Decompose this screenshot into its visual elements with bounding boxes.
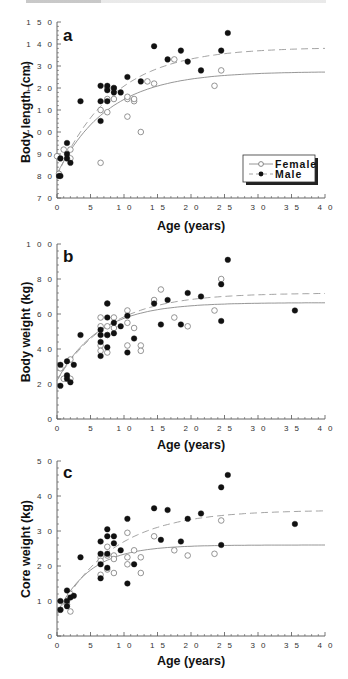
female-data-point <box>125 114 131 120</box>
y-tick-label: 0 <box>48 415 54 424</box>
female-data-point <box>111 96 117 102</box>
panel-c-points <box>58 472 298 614</box>
male-data-point <box>218 542 224 548</box>
male-data-point <box>131 562 137 568</box>
female-data-point <box>172 548 178 554</box>
male-data-point <box>151 43 157 49</box>
female-data-point <box>125 562 131 568</box>
male-data-point <box>218 48 224 54</box>
x-tick-label: 1 5 <box>150 424 167 433</box>
female-data-point <box>172 315 178 321</box>
y-tick-label: 7 0 <box>37 194 54 203</box>
female-data-point <box>125 555 131 561</box>
male-data-point <box>178 48 184 54</box>
male-data-point <box>58 362 64 368</box>
x-tick-label: 3 0 <box>250 641 267 650</box>
x-tick-label: 3 0 <box>250 203 267 212</box>
male-data-point <box>198 68 204 74</box>
x-tick-label: 2 5 <box>217 203 234 212</box>
x-tick-label: 4 0 <box>317 203 334 212</box>
male-data-point <box>105 301 111 307</box>
male-data-point <box>158 322 164 328</box>
female-data-point <box>185 324 191 330</box>
panel-b-points <box>58 257 298 389</box>
legend-male-label: Male <box>275 168 302 180</box>
male-data-point <box>105 345 111 351</box>
male-data-point <box>165 507 171 513</box>
male-data-point <box>98 539 104 545</box>
x-tick-label: 4 0 <box>317 424 334 433</box>
male-data-point <box>58 173 64 179</box>
male-data-point <box>78 332 84 338</box>
x-tick-label: 2 5 <box>217 424 234 433</box>
y-tick-label: 1 0 0 <box>26 240 54 249</box>
female-data-point <box>105 544 111 550</box>
female-data-point <box>131 325 137 331</box>
male-data-point <box>118 324 124 330</box>
male-data-point <box>125 313 131 319</box>
female-fit-line <box>57 545 325 613</box>
female-data-point <box>138 348 144 354</box>
male-data-point <box>111 320 117 326</box>
x-tick-label: 4 0 <box>317 641 334 650</box>
male-data-point <box>105 87 111 93</box>
male-data-point <box>131 336 137 342</box>
male-data-point <box>151 506 157 512</box>
male-data-point <box>218 318 224 324</box>
y-tick-label: 1 0 <box>37 597 54 606</box>
x-tick-label: 3 0 <box>250 424 267 433</box>
panel-b-letter: b <box>63 247 73 266</box>
female-data-point <box>125 530 131 536</box>
male-data-point <box>105 551 111 557</box>
male-data-point <box>292 521 298 527</box>
female-data-point <box>125 320 131 326</box>
male-data-point <box>98 332 104 338</box>
legend: Female Male <box>243 155 318 185</box>
x-tick-label: 2 0 <box>183 424 200 433</box>
female-data-point <box>158 287 164 293</box>
female-data-point <box>212 83 218 89</box>
male-data-point <box>125 581 131 587</box>
male-data-point <box>58 607 64 613</box>
male-data-point <box>218 485 224 491</box>
y-tick-label: 4 0 <box>37 492 54 501</box>
female-data-point <box>218 276 224 282</box>
female-data-point <box>98 160 104 166</box>
legend-female-marker-icon <box>259 162 264 167</box>
female-data-point <box>105 350 111 356</box>
male-data-point <box>218 282 224 288</box>
x-tick-label: 5 <box>88 424 94 433</box>
male-data-point <box>125 516 131 522</box>
male-data-point <box>98 98 104 104</box>
male-data-point <box>78 98 84 104</box>
panel-c-xlabel: Age (years) <box>157 654 225 668</box>
female-data-point <box>212 551 218 557</box>
male-data-point <box>58 156 64 162</box>
panel-a-xlabel: Age (years) <box>157 219 225 233</box>
male-data-point <box>151 301 157 307</box>
male-data-point <box>71 593 77 599</box>
y-tick-label: 3 0 <box>37 527 54 536</box>
y-tick-label: 8 0 <box>37 275 54 284</box>
x-tick-label: 2 0 <box>183 203 200 212</box>
panel-a-letter: a <box>63 26 73 45</box>
legend-male-marker-icon <box>259 172 264 177</box>
male-data-point <box>105 98 111 104</box>
x-tick-label: 1 0 <box>116 424 133 433</box>
male-data-point <box>138 79 144 85</box>
male-data-point <box>64 359 70 365</box>
male-data-point <box>185 290 191 296</box>
x-tick-label: 0 <box>55 424 61 433</box>
male-data-point <box>58 383 64 389</box>
female-data-point <box>98 348 104 354</box>
female-data-point <box>131 548 137 554</box>
y-tick-label: 9 0 <box>37 150 54 159</box>
female-data-point <box>111 325 117 331</box>
y-tick-label: 2 0 <box>37 380 54 389</box>
male-data-point <box>105 534 111 540</box>
male-data-point <box>185 516 191 522</box>
x-tick-label: 3 5 <box>284 641 301 650</box>
x-tick-label: 1 0 <box>116 641 133 650</box>
female-data-point <box>125 308 131 314</box>
panel-b: 02 04 06 08 01 0 0051 01 52 02 53 03 54 … <box>19 240 335 452</box>
